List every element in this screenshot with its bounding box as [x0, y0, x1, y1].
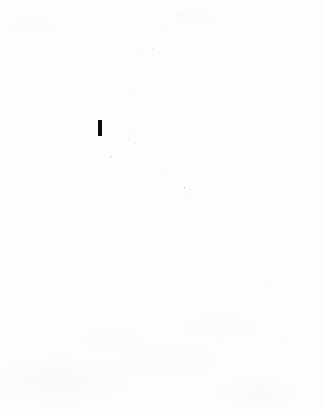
micrograph-canvas [0, 0, 323, 409]
scale-bar [98, 120, 102, 136]
micrograph-figure: Grainy black and white micrograph of a m… [0, 0, 323, 409]
